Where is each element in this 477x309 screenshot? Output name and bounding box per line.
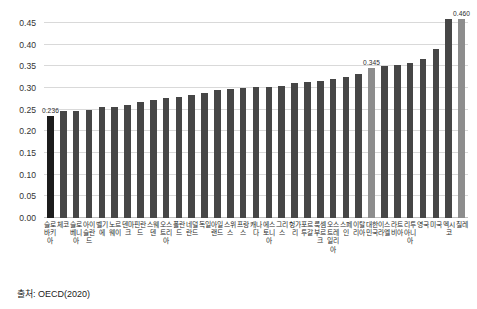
y-axis-tick-label: 0.20 xyxy=(19,126,36,136)
source-note: 출처: OECD(2020) xyxy=(17,287,90,300)
x-axis-tick-label: 라트비아 xyxy=(391,221,403,237)
x-axis-tick-label: 이스라엘 xyxy=(378,221,390,237)
x-axis-tick-label: 아이슬란드 xyxy=(83,221,95,246)
y-axis-tick-label: 0.05 xyxy=(19,191,36,201)
x-axis-tick-label: 벨기에 xyxy=(96,221,108,237)
bar xyxy=(176,97,183,218)
bar xyxy=(60,111,67,218)
bar xyxy=(201,93,208,218)
x-axis-tick-label: 폴란드 xyxy=(173,221,185,237)
bar xyxy=(137,102,144,218)
bar xyxy=(407,63,414,218)
x-axis-tick-label: 룩셈부르크 xyxy=(314,221,326,246)
x-axis-tick-label: 슬로베니아 xyxy=(70,221,82,246)
bar xyxy=(73,111,80,218)
x-axis-tick-label: 스웨덴 xyxy=(147,221,159,237)
y-axis-tick-label: 0.25 xyxy=(19,105,36,115)
y-axis-tick-label: 0.45 xyxy=(19,18,36,28)
x-axis-tick-label: 프랑스 xyxy=(237,221,249,237)
x-axis-tick-label: 노르웨이 xyxy=(109,221,121,237)
bar xyxy=(381,66,388,218)
x-axis-tick-label: 슬로바키아 xyxy=(44,221,56,246)
x-axis-tick-label: 핀란드 xyxy=(134,221,146,237)
bar xyxy=(266,87,273,218)
y-axis-labels: 0.000.050.100.150.200.250.300.350.400.45 xyxy=(0,12,40,218)
y-axis-tick-label: 0.30 xyxy=(19,83,36,93)
bar-chart: 0.000.050.100.150.200.250.300.350.400.45… xyxy=(0,0,477,309)
bar xyxy=(86,110,93,218)
bar xyxy=(150,100,157,218)
bar xyxy=(253,87,260,218)
bar-value-label: 0.236 xyxy=(42,107,59,114)
x-axis-tick-label: 스페인 xyxy=(340,221,352,237)
bar xyxy=(433,49,440,218)
bar xyxy=(330,79,337,218)
y-axis-tick-label: 0.40 xyxy=(19,40,36,50)
x-axis-tick-label: 영국 xyxy=(417,221,429,229)
bar xyxy=(99,107,106,218)
bar xyxy=(420,59,427,218)
x-axis-tick-label: 에스토니아 xyxy=(263,221,275,246)
bar xyxy=(214,90,221,218)
x-axis-tick-label: 캐나다 xyxy=(250,221,262,237)
bar xyxy=(291,83,298,218)
x-axis-tick-label: 체코 xyxy=(57,221,69,229)
bar xyxy=(445,19,452,218)
x-axis-tick-label: 그리스 xyxy=(276,221,288,237)
bar-series: 0.2360.3450.460 xyxy=(44,12,468,218)
x-axis-tick-label: 아일랜드 xyxy=(211,221,223,237)
x-axis-tick-label: 스위스 xyxy=(224,221,236,237)
bar xyxy=(355,74,362,218)
bar xyxy=(124,105,131,218)
y-axis-tick-label: 0.35 xyxy=(19,61,36,71)
bar xyxy=(317,81,324,218)
x-axis-tick-label: 네덜란드 xyxy=(186,221,198,237)
y-axis-tick-label: 0.00 xyxy=(19,213,36,223)
y-axis-tick-label: 0.15 xyxy=(19,148,36,158)
bar-value-label: 0.345 xyxy=(363,59,380,66)
bar-value-label: 0.460 xyxy=(453,10,470,17)
y-axis-tick-label: 0.10 xyxy=(19,170,36,180)
x-axis-tick-label: 멕시코 xyxy=(443,221,455,237)
x-axis-labels: 슬로바키아체코슬로베니아아이슬란드벨기에노르웨이덴마크핀란드스웨덴오스트리아폴란… xyxy=(44,221,468,285)
bar xyxy=(240,88,247,218)
bar xyxy=(47,116,54,218)
x-axis-tick-label: 포르투갈 xyxy=(301,221,313,237)
x-axis-tick-label: 독일 xyxy=(199,221,211,229)
plot-area: 0.2360.3450.460 xyxy=(44,12,468,218)
bar xyxy=(227,89,234,218)
bar xyxy=(343,77,350,218)
x-axis-tick-label: 오스트리아 xyxy=(160,221,172,246)
x-axis-tick-label: 오스트레일리아 xyxy=(327,221,339,254)
bar xyxy=(163,98,170,218)
x-axis-tick-label: 이탈리아 xyxy=(353,221,365,237)
bar xyxy=(304,82,311,218)
x-axis-tick-label: 대한민국 xyxy=(366,221,378,237)
bar xyxy=(368,68,375,218)
x-axis-tick-label: 칠레 xyxy=(456,221,468,229)
bar xyxy=(188,95,195,218)
bar xyxy=(278,86,285,218)
bar xyxy=(394,65,401,218)
bar xyxy=(458,19,465,218)
x-axis-tick-label: 리투아니아 xyxy=(404,221,416,246)
x-axis-tick-label: 덴마크 xyxy=(122,221,134,237)
bar xyxy=(111,107,118,218)
x-axis-tick-label: 미국 xyxy=(430,221,442,229)
x-axis-tick-label: 헝가리 xyxy=(289,221,301,237)
